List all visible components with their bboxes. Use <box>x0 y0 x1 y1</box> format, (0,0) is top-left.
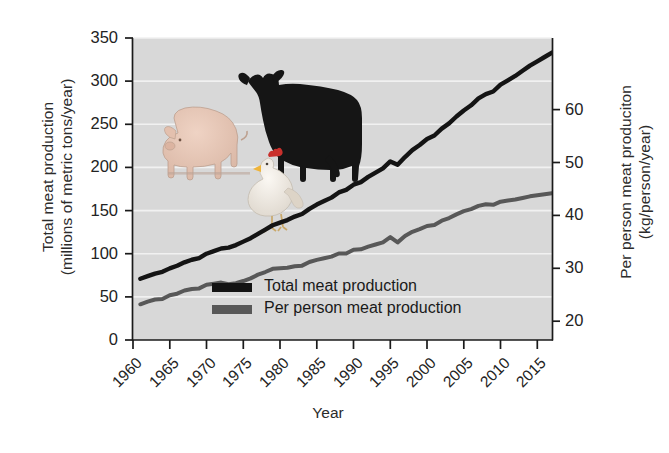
y-axis-left-tick-200: 200 <box>70 157 118 176</box>
y-axis-right-tick-20: 20 <box>565 311 605 330</box>
legend-label-0: Total meat production <box>264 277 417 295</box>
y-axis-right-tick-30: 30 <box>565 258 605 277</box>
legend-swatch-1 <box>212 305 252 314</box>
y-axis-left-tick-250: 250 <box>70 114 118 133</box>
legend-label-1: Per person meat production <box>264 299 461 317</box>
y-axis-right-tick-40: 40 <box>565 205 605 224</box>
y-axis-left-tick-350: 350 <box>70 28 118 47</box>
meat-production-chart: Total meat production (millions of metri… <box>0 0 669 453</box>
y-axis-left-tick-150: 150 <box>70 201 118 220</box>
y-axis-right-tick-50: 50 <box>565 153 605 172</box>
legend-swatch-0 <box>212 283 252 292</box>
y-axis-left-tick-300: 300 <box>70 71 118 90</box>
y-axis-right-tick-60: 60 <box>565 100 605 119</box>
x-axis-ticks <box>133 340 537 349</box>
y-axis-left-tick-0: 0 <box>70 330 118 349</box>
y-axis-left-tick-100: 100 <box>70 244 118 263</box>
y-axis-left-tick-50: 50 <box>70 287 118 306</box>
